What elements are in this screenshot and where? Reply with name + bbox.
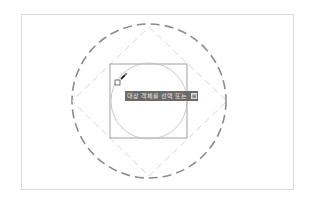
dashed-diamond[interactable] bbox=[72, 27, 227, 176]
inscribed-circle[interactable] bbox=[111, 63, 187, 139]
tooltip-text: 대상 객체를 선택 또는 bbox=[127, 91, 187, 101]
outer-dashed-circle[interactable] bbox=[72, 24, 226, 178]
pickbox-cursor bbox=[115, 80, 120, 85]
expand-options-icon[interactable]: ⊞ bbox=[191, 93, 197, 99]
command-prompt-tooltip: 대상 객체를 선택 또는 ⊞ bbox=[125, 91, 198, 101]
